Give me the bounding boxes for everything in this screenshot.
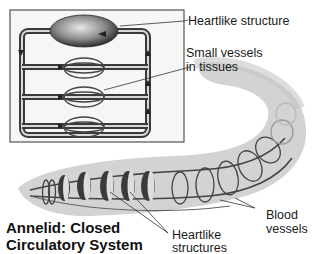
label-heartlike-structures-line1: Heartlike — [172, 228, 221, 242]
label-small-vessels-line1: Small vessels — [186, 46, 262, 60]
inset-box — [10, 10, 184, 142]
annelid-circulatory-diagram: Heartlike structure Small vessels in tis… — [0, 0, 316, 254]
label-blood-vessels-line1: Blood — [266, 208, 298, 222]
label-heartlike-structures-line2: structures — [172, 241, 227, 254]
label-heartlike-structure: Heartlike structure — [188, 14, 289, 28]
title-line1: Annelid: Closed — [6, 220, 120, 236]
label-blood-vessels-line2: vessels — [266, 222, 308, 236]
label-small-vessels-line2: in tissues — [186, 60, 238, 74]
title-line2: Circulatory System — [6, 237, 143, 253]
